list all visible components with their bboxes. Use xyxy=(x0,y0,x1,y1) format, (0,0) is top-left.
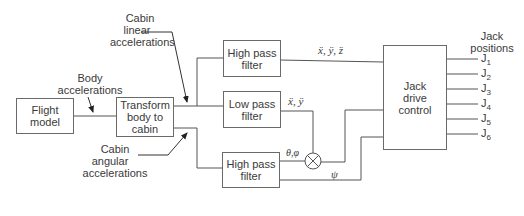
jack-output-sub: 5 xyxy=(487,118,491,127)
annotation-line: angular xyxy=(70,155,150,167)
flight-model-block: Flight model xyxy=(16,98,74,134)
cabin-angular-annotation: Cabin angular accelerations xyxy=(80,143,150,179)
jack-output-j4: J4 xyxy=(481,97,491,112)
high-pass-filter-bottom-block: High pass filter xyxy=(222,152,280,188)
low-pass-label: Low pass filter xyxy=(229,98,275,122)
jack-output-j1: J1 xyxy=(481,52,491,67)
transform-to-highpass-bottom-line xyxy=(173,128,222,168)
cabin-linear-annotation: Cabin linear accelerations xyxy=(110,12,170,48)
psi-signal-label: ψ xyxy=(331,168,338,180)
jack-drive-label: Jack drive control xyxy=(398,80,431,116)
jack-output-j6: J6 xyxy=(481,127,491,142)
theta-phi-signal-label: θ,φ xyxy=(286,147,299,158)
multiplier-to-jack-line xyxy=(321,110,383,162)
high-pass-bottom-label: High pass filter xyxy=(227,158,276,182)
annotation-line: Jack xyxy=(464,30,520,42)
jack-output-j2: J2 xyxy=(481,67,491,82)
flight-model-label: Flight model xyxy=(30,104,60,128)
annotation-line: accelerations xyxy=(80,167,150,179)
high-pass-top-label: High pass filter xyxy=(228,47,277,71)
transform-to-highpass-top-line xyxy=(197,58,223,106)
high-pass-filter-top-block: High pass filter xyxy=(223,40,281,77)
low-pass-filter-block: Low pass filter xyxy=(223,91,281,128)
xy-signal-label: ẍ, ÿ xyxy=(288,95,303,107)
annotation-line: Cabin xyxy=(110,12,170,24)
annotation-line: Cabin xyxy=(80,143,150,155)
transform-label: Transform body to cabin xyxy=(120,99,170,135)
xyz-signal-line xyxy=(280,60,383,62)
annotation-line: positions xyxy=(464,42,520,54)
annotation-line: accelerations xyxy=(110,36,170,48)
annotation-line: Body xyxy=(55,72,125,84)
jack-output-sub: 3 xyxy=(487,88,491,97)
annotation-line: linear xyxy=(104,24,170,36)
jack-positions-annotation: Jack positions xyxy=(464,30,520,54)
jack-output-sub: 2 xyxy=(487,73,491,82)
jack-output-j3: J3 xyxy=(481,82,491,97)
jack-drive-control-block: Jack drive control xyxy=(383,45,447,150)
jack-output-j5: J5 xyxy=(481,112,491,127)
jack-output-sub: 1 xyxy=(487,58,491,67)
annotation-line: accelerations xyxy=(55,84,125,96)
transform-block: Transform body to cabin xyxy=(116,97,174,137)
jack-output-sub: 4 xyxy=(487,103,491,112)
xyz-signal-label: ẍ, ÿ, z̈ xyxy=(318,44,343,56)
jack-output-sub: 6 xyxy=(487,133,491,142)
body-accelerations-annotation: Body accelerations xyxy=(55,72,125,96)
